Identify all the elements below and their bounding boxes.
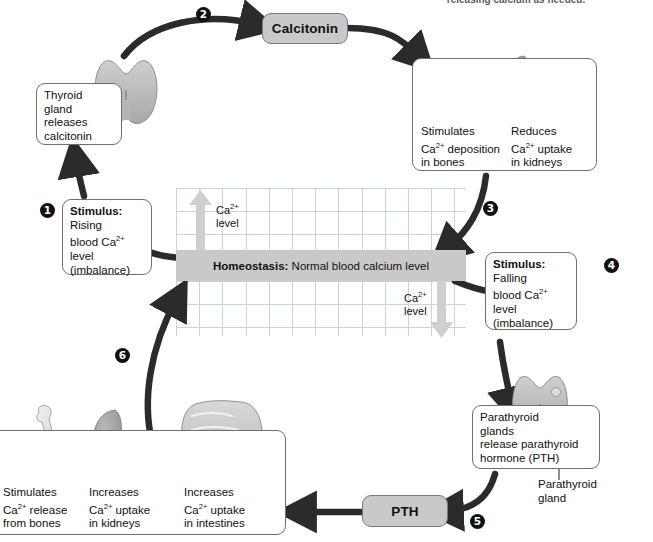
thyroid-release-box[interactable]: Thyroid gland releases calcitonin [36, 83, 122, 145]
stimulus-rising-label: Stimulus:Risingblood Ca2+level(imbalance… [70, 205, 130, 277]
step-marker-5: 5 [470, 514, 485, 529]
step-marker-3: 3 [483, 201, 498, 216]
parathyroid-release-label: Parathyroid glands release parathyroid h… [480, 411, 578, 466]
arrow-calcitonin-to-effects [347, 28, 418, 56]
parathyroid-release-box[interactable]: Parathyroid glands release parathyroid h… [472, 405, 600, 469]
calcium-homeostasis-diagram: releasing calcium as needed. [0, 0, 653, 542]
homeostasis-band: Homeostasis: Normal blood calcium level [176, 250, 466, 281]
ca-level-up-label: Ca2+level [216, 200, 239, 230]
parathyroid-gland-annotation: Parathyroid gland [538, 478, 597, 505]
arrow-thyroid-to-calcitonin [124, 19, 256, 56]
calcitonin-effects-box[interactable]: StimulatesCa2+ depositionin bones Reduce… [412, 58, 597, 171]
stimulus-falling-box[interactable]: Stimulus:Fallingblood Ca2+level(imbalanc… [485, 252, 577, 330]
step-marker-1: 1 [40, 203, 55, 218]
arrow-effects-to-band-lower [148, 300, 176, 442]
stimulus-rising-box[interactable]: Stimulus:Risingblood Ca2+level(imbalance… [62, 199, 152, 275]
pth-effect-intestine-label: IncreasesCa2+ uptakein intestines [184, 486, 245, 531]
homeostasis-rest-label: Normal blood calcium level [288, 260, 429, 272]
pth-effect-kidney-label: IncreasesCa2+ uptakein kidneys [89, 486, 150, 531]
pth-effect-bone-label: StimulatesCa2+ releasefrom bones [3, 486, 67, 531]
arrow-parathyroid-to-pth [447, 474, 495, 511]
arrow-stimulus-to-parathyroid [500, 342, 512, 404]
arrow-stimulus-to-thyroid [76, 160, 84, 196]
homeostasis-bold-label: Homeostasis: [213, 260, 288, 272]
ca-level-down-label: Ca2+level [404, 288, 427, 318]
calcitonin-effect-bone-label: StimulatesCa2+ depositionin bones [421, 125, 500, 170]
calcitonin-effect-kidney-label: ReducesCa2+ uptakein kidneys [511, 125, 572, 170]
pth-effects-box[interactable]: StimulatesCa2+ releasefrom bones Increas… [0, 430, 286, 535]
thyroid-release-label: Thyroid gland releases calcitonin [44, 89, 92, 144]
step-marker-2: 2 [196, 7, 211, 22]
pth-pill[interactable]: PTH [362, 495, 448, 527]
step-marker-6: 6 [115, 348, 130, 363]
stimulus-falling-label: Stimulus:Fallingblood Ca2+level(imbalanc… [493, 258, 553, 330]
calcitonin-pill[interactable]: Calcitonin [262, 13, 348, 44]
cut-off-caption: releasing calcium as needed. [392, 0, 640, 5]
step-marker-4: 4 [604, 258, 619, 273]
